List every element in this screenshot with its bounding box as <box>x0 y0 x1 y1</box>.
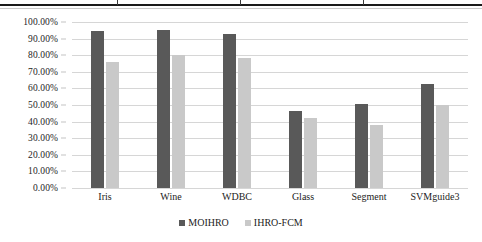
bar-group <box>336 22 402 188</box>
legend-item-moihro[interactable]: MOIHRO <box>179 217 229 229</box>
y-axis-tick-mark <box>61 55 66 56</box>
y-axis-tick-label: 0.00% <box>33 183 58 193</box>
table-column-rule <box>240 0 241 5</box>
bar-group <box>72 22 138 188</box>
bar-chart: 100.00%90.00%80.00%70.00%60.00%50.00%40.… <box>0 10 482 242</box>
bar-group <box>138 22 204 188</box>
table-top-rule <box>0 4 482 6</box>
x-axis-tick-label: Segment <box>352 190 387 204</box>
y-axis-tick-label: 30.00% <box>28 133 58 143</box>
table-column-rule <box>363 0 364 5</box>
y-axis-tick-mark <box>61 105 66 106</box>
chart-legend: MOIHROIHRO-FCM <box>0 214 482 232</box>
y-axis-tick-label: 50.00% <box>28 100 58 110</box>
legend-swatch-icon <box>179 220 185 226</box>
y-axis-tick-mark <box>61 38 66 39</box>
y-axis-tick-mark <box>61 71 66 72</box>
bar-group <box>204 22 270 188</box>
bar-ihro-fcm-wdbc[interactable] <box>238 58 251 188</box>
bar-ihro-fcm-glass[interactable] <box>304 118 317 188</box>
bar-moihro-segment[interactable] <box>355 104 368 188</box>
y-axis-tick-label: 100.00% <box>23 17 58 27</box>
table-column-rule <box>117 0 118 5</box>
plot-area <box>72 22 468 188</box>
bar-moihro-wine[interactable] <box>157 30 170 188</box>
bar-ihro-fcm-svmguide3[interactable] <box>436 105 449 188</box>
x-axis-tick-label: WDBC <box>222 190 252 204</box>
y-axis-tick-label: 60.00% <box>28 83 58 93</box>
legend-label: MOIHRO <box>188 217 229 229</box>
legend-swatch-icon <box>245 220 251 226</box>
bar-moihro-iris[interactable] <box>91 31 104 188</box>
y-axis-tick-mark <box>61 88 66 89</box>
y-axis-tick-label: 70.00% <box>28 67 58 77</box>
bar-moihro-glass[interactable] <box>289 111 302 188</box>
bar-ihro-fcm-segment[interactable] <box>370 125 383 188</box>
bar-moihro-svmguide3[interactable] <box>421 84 434 188</box>
x-axis-tick-label: Wine <box>160 190 181 204</box>
y-axis-tick-mark <box>61 138 66 139</box>
gridline <box>72 188 468 189</box>
x-axis-tick-label: SVMguide3 <box>411 190 460 204</box>
x-axis: IrisWineWDBCGlassSegmentSVMguide3 <box>72 190 468 206</box>
x-axis-tick-label: Iris <box>98 190 111 204</box>
x-axis-tick-label: Glass <box>292 190 314 204</box>
bar-ihro-fcm-iris[interactable] <box>106 62 119 188</box>
y-axis-tick-mark <box>61 154 66 155</box>
legend-label: IHRO-FCM <box>254 217 303 229</box>
y-axis-tick-label: 20.00% <box>28 150 58 160</box>
y-axis-tick-mark <box>61 188 66 189</box>
table-hairline-rule <box>0 8 482 9</box>
y-axis-tick-mark <box>61 22 66 23</box>
legend-item-ihro-fcm[interactable]: IHRO-FCM <box>245 217 303 229</box>
y-axis-tick-label: 10.00% <box>28 166 58 176</box>
y-axis-tick-mark <box>61 121 66 122</box>
y-axis-tick-mark <box>61 171 66 172</box>
y-axis: 100.00%90.00%80.00%70.00%60.00%50.00%40.… <box>0 22 66 188</box>
table-border-fragment <box>0 0 482 10</box>
bar-ihro-fcm-wine[interactable] <box>172 55 185 188</box>
bar-group <box>270 22 336 188</box>
y-axis-tick-label: 40.00% <box>28 117 58 127</box>
bar-moihro-wdbc[interactable] <box>223 34 236 188</box>
y-axis-tick-label: 90.00% <box>28 34 58 44</box>
bar-group <box>402 22 468 188</box>
y-axis-tick-label: 80.00% <box>28 50 58 60</box>
